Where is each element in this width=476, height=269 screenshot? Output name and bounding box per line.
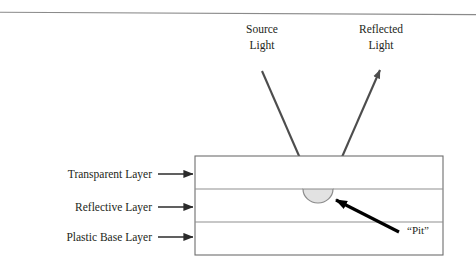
header-rule: [0, 12, 476, 14]
optical-disc-diagram: Source Light Reflected Light “Pit” Trans…: [0, 0, 476, 269]
reflected-light-label-line1: Reflected: [359, 23, 403, 35]
disc-cross-section-box: [195, 156, 443, 255]
source-light-label-line1: Source: [246, 23, 278, 35]
reflected-light-label-line2: Light: [369, 39, 395, 52]
transparent-layer-label: Transparent Layer: [68, 168, 152, 181]
diagram-page: Source Light Reflected Light “Pit” Trans…: [0, 0, 476, 269]
source-light-label-line2: Light: [250, 39, 276, 52]
pit-label: “Pit”: [407, 224, 429, 236]
reflective-layer-label: Reflective Layer: [75, 201, 152, 214]
plastic-base-layer-label: Plastic Base Layer: [66, 231, 152, 244]
